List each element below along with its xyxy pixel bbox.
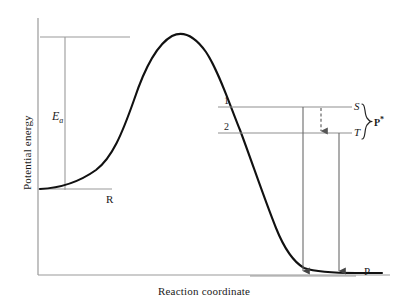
x-axis-label: Reaction coordinate — [158, 286, 250, 297]
excited-level-1-label: 1 — [224, 96, 229, 106]
y-axis-label: Potential energy — [22, 115, 33, 190]
triplet-state-label: T — [354, 127, 360, 138]
excited-product-label: P* — [374, 116, 384, 128]
singlet-state-label: S — [354, 101, 360, 112]
activation-energy-label: Ea — [52, 110, 63, 125]
state-grouping-brace — [362, 104, 372, 139]
potential-energy-curve — [40, 34, 382, 273]
excited-level-2-label: 2 — [224, 122, 229, 132]
diagram-canvas — [0, 0, 400, 302]
reactant-label: R — [106, 194, 113, 205]
activation-energy-subscript: a — [59, 116, 63, 125]
excited-state-levels — [218, 107, 352, 133]
potential-energy-diagram: Potential energy Reaction coordinate Ea … — [0, 0, 400, 302]
axis-group — [38, 18, 390, 275]
excited-product-star: * — [380, 115, 384, 124]
product-label: P — [364, 266, 370, 277]
